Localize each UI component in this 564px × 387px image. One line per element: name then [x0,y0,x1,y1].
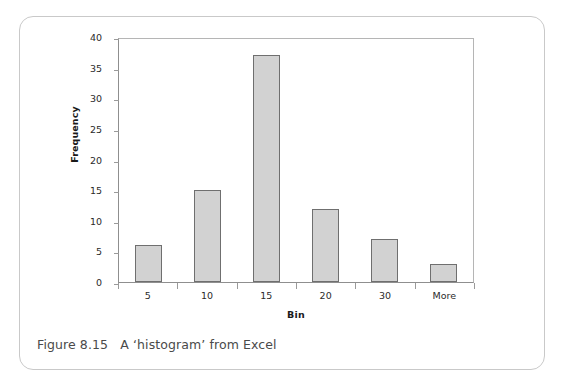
y-axis-tick-label: 5 [76,248,102,258]
y-axis-tick-label: 10 [76,217,102,227]
bar-slot [178,39,237,282]
x-axis-tick-label: 10 [177,290,236,301]
x-axis-tick-label: More [415,290,474,301]
x-axis-tick-mark [237,283,238,289]
x-axis-title: Bin [118,309,474,320]
plot-area [118,38,474,283]
y-axis-tick-mark [114,39,119,40]
x-axis-tick-mark [474,283,475,289]
x-axis-tick-label: 5 [118,290,177,301]
x-axis-tick-label: 20 [296,290,355,301]
figure-caption: Figure 8.15 A ‘histogram’ from Excel [37,337,277,352]
y-axis-tick-labels: 0510152025303540 [76,33,102,283]
y-axis-tick-label: 0 [76,278,102,288]
x-axis-tick-label: 15 [237,290,296,301]
y-axis-tick-mark [114,223,119,224]
x-axis-tick-mark [296,283,297,289]
figure-card: Frequency 0510152025303540 510152030More… [19,16,545,370]
y-axis-tick-mark [114,253,119,254]
bar[interactable] [430,264,457,282]
y-axis-tick-mark [114,100,119,101]
x-axis-tick-mark [415,283,416,289]
bar-slot [355,39,414,282]
figure-page: Frequency 0510152025303540 510152030More… [0,0,564,387]
y-axis-tick-mark [114,192,119,193]
bar-slot [119,39,178,282]
y-axis-tick-label: 15 [76,186,102,196]
histogram-chart: Frequency 0510152025303540 510152030More… [20,17,546,327]
x-axis-tick-mark [177,283,178,289]
y-axis-tick-mark [114,162,119,163]
y-axis-tick-label: 35 [76,64,102,74]
y-axis-tick-mark [114,70,119,71]
bar[interactable] [253,55,280,282]
x-axis-tick-marks [118,283,474,289]
x-axis-tick-labels: 510152030More [118,290,474,301]
bar[interactable] [194,190,221,282]
y-axis-tick-label: 40 [76,33,102,43]
y-axis-tick-label: 20 [76,156,102,166]
bar-slot [414,39,473,282]
bar[interactable] [135,245,162,282]
x-axis-tick-mark [118,283,119,289]
bar[interactable] [371,239,398,282]
y-axis-tick-label: 25 [76,125,102,135]
y-axis-tick-label: 30 [76,95,102,105]
y-axis-tick-mark [114,131,119,132]
bar[interactable] [312,209,339,283]
bar-slot [237,39,296,282]
bar-slot [296,39,355,282]
x-axis-tick-label: 30 [355,290,414,301]
bar-series [119,39,473,282]
x-axis-tick-mark [355,283,356,289]
